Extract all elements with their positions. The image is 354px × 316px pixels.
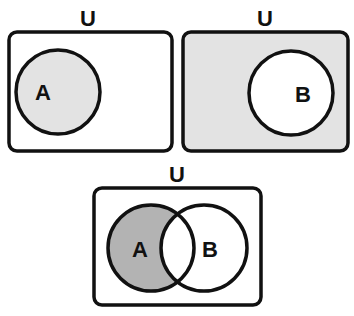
panel-set-a: U A (9, 6, 172, 151)
panel-complement-b: U B (183, 6, 348, 151)
set-b-label: B (202, 237, 218, 262)
universe-label: U (257, 6, 273, 31)
universe-label: U (80, 6, 96, 31)
set-b-label: B (295, 82, 311, 107)
universe-label: U (169, 162, 185, 187)
set-a-circle (16, 50, 100, 134)
set-a-label: A (35, 80, 51, 105)
set-b-circle (249, 51, 333, 135)
venn-diagram-canvas: U A U B U A B (0, 0, 354, 316)
panel-a-minus-b: U A B (94, 162, 261, 305)
set-a-label: A (132, 237, 148, 262)
